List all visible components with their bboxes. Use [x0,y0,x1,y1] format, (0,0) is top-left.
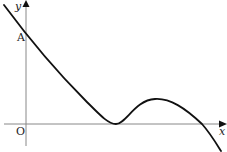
x-axis-label: x [219,125,226,138]
graph-canvas: y x O A [0,0,227,152]
point-a-label: A [16,31,26,44]
y-axis-label: y [14,0,22,13]
function-curve [4,5,221,151]
origin-label: O [16,125,25,138]
y-axis-arrow-icon [23,0,30,7]
